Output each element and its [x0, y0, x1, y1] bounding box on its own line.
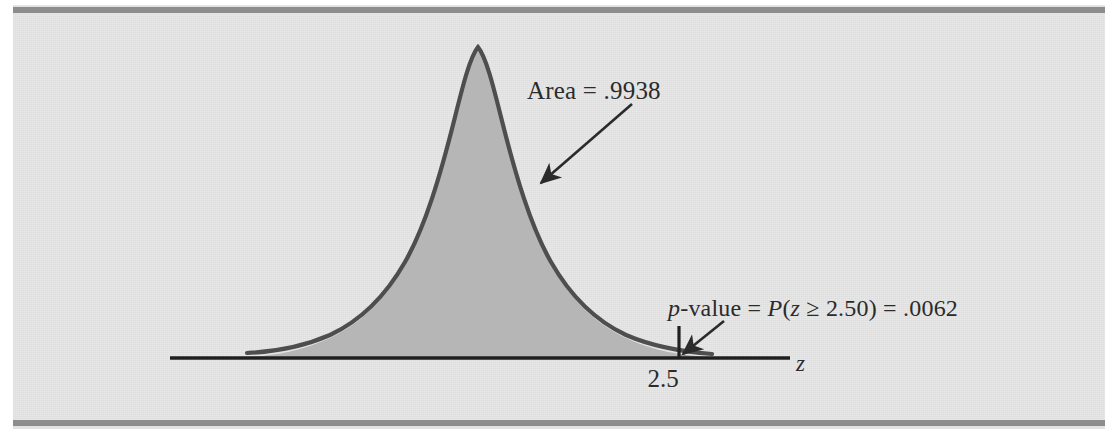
pvalue-p-italic: p [668, 295, 680, 321]
pvalue-callout-arrow [683, 321, 724, 354]
area-callout-arrow [541, 104, 632, 183]
pvalue-annotation-label: p-value = P(z ≥ 2.50) = .0062 [668, 296, 958, 320]
z-axis-label: z [796, 352, 805, 375]
pvalue-rest-text: ≥ 2.50) = .0062 [800, 295, 958, 321]
axis-tick-label-2-5: 2.5 [640, 366, 686, 391]
normal-curve-plot [0, 0, 1112, 439]
pvalue-open-paren: ( [782, 295, 790, 321]
pvalue-P-italic: P [768, 295, 783, 321]
area-annotation-label: Area = .9938 [527, 78, 661, 103]
pvalue-mid-text: -value = [680, 295, 767, 321]
pvalue-z-italic: z [791, 295, 801, 321]
figure-root: Area = .9938 p-value = P(z ≥ 2.50) = .00… [0, 0, 1112, 439]
